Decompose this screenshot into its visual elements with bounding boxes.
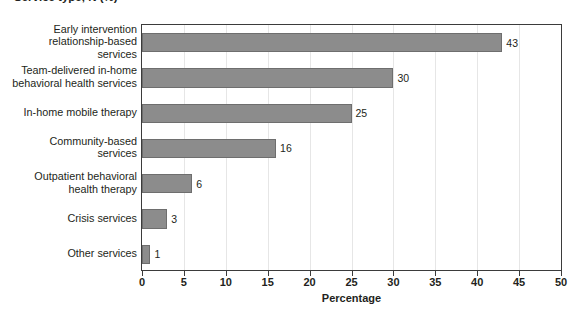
y-axis-category-label: Early interventionrelationship-basedserv… [0, 23, 137, 61]
y-axis-category-label: Crisis services [0, 212, 137, 225]
bar-value-label: 6 [196, 179, 202, 190]
bar[interactable] [142, 33, 502, 52]
x-axis-tick-label: 10 [220, 276, 232, 288]
y-axis-category-line: Team-delivered in-home [0, 64, 137, 77]
bar-value-label: 30 [397, 73, 409, 84]
x-axis-tick-label: 30 [387, 276, 399, 288]
y-axis-category-line: behavioral health services [0, 77, 137, 90]
bar-chart-figure: Service type, N (%) Early interventionre… [0, 0, 588, 310]
bar[interactable] [142, 245, 150, 264]
x-axis-tick-label: 20 [303, 276, 315, 288]
y-axis-category-line: services [0, 147, 137, 160]
y-axis-category-labels: Early interventionrelationship-basedserv… [0, 24, 137, 271]
bar-value-label: 25 [356, 108, 368, 119]
y-axis-category-line: health therapy [0, 183, 137, 196]
x-axis-tick-label: 15 [262, 276, 274, 288]
bar[interactable] [142, 68, 393, 87]
y-axis-category-label: Community-basedservices [0, 135, 137, 160]
y-axis-category-line: Outpatient behavioral [0, 170, 137, 183]
bar-row: 6 [142, 174, 561, 193]
bar-row: 25 [142, 104, 561, 123]
y-axis-category-line: In-home mobile therapy [0, 106, 137, 119]
x-axis-tick-label: 40 [471, 276, 483, 288]
y-axis-category-line: Community-based [0, 135, 137, 148]
bar[interactable] [142, 174, 192, 193]
bar-value-label: 16 [280, 143, 292, 154]
bar-value-label: 43 [506, 37, 518, 48]
y-axis-category-line: relationship-based [0, 35, 137, 48]
bar-value-label: 3 [171, 214, 177, 225]
y-axis-category-line: Other services [0, 247, 137, 260]
chart-title-cropped: Service type, N (%) [0, 0, 588, 7]
y-axis-category-label: Outpatient behavioralhealth therapy [0, 170, 137, 195]
x-axis-tick-label: 0 [139, 276, 145, 288]
bar[interactable] [142, 209, 167, 228]
bar-value-label: 1 [154, 249, 160, 260]
bar-row: 16 [142, 139, 561, 158]
bar-row: 43 [142, 33, 561, 52]
bar-row: 30 [142, 68, 561, 87]
bar-row: 3 [142, 209, 561, 228]
y-axis-category-label: In-home mobile therapy [0, 106, 137, 119]
y-axis-category-line: services [0, 48, 137, 61]
x-axis-tick-labels: 05101520253035404550 [141, 276, 562, 292]
y-axis-category-line: Crisis services [0, 212, 137, 225]
y-axis-category-line: Early intervention [0, 23, 137, 36]
y-axis-category-label: Team-delivered in-homebehavioral health … [0, 64, 137, 89]
plot-area: 43302516631 [141, 24, 562, 271]
chart-title-text: Service type, N (%) [14, 0, 118, 3]
y-axis-category-label: Other services [0, 247, 137, 260]
x-axis-tick-label: 25 [345, 276, 357, 288]
x-axis-tick-label: 50 [555, 276, 567, 288]
x-axis-tick-label: 45 [513, 276, 525, 288]
bar-row: 1 [142, 245, 561, 264]
x-axis-tick-label: 5 [181, 276, 187, 288]
bars-layer: 43302516631 [142, 25, 561, 270]
x-axis-title: Percentage [141, 292, 562, 304]
bar[interactable] [142, 104, 352, 123]
bar[interactable] [142, 139, 276, 158]
x-axis-tick-label: 35 [429, 276, 441, 288]
